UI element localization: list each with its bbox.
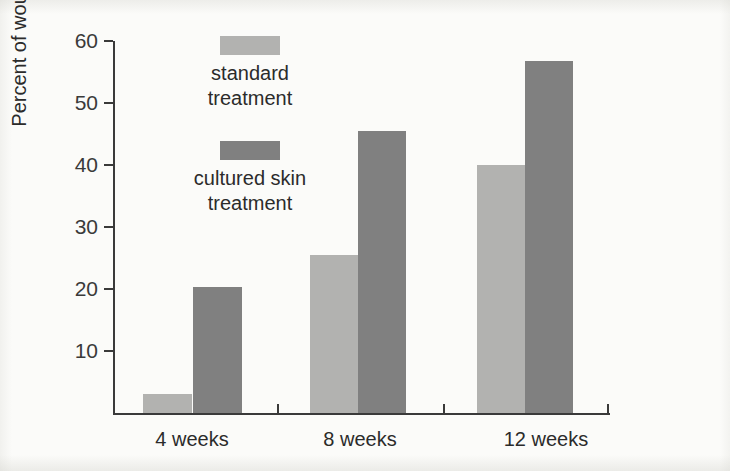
x-axis-label: 8 weeks [290,428,430,450]
bar-cultured [525,61,573,413]
legend-entry-standard: standard treatment [140,36,360,111]
legend-swatch-standard-icon [220,36,280,55]
y-tick-label: 60 [56,30,98,51]
x-axis-label: 4 weeks [122,428,262,450]
x-axis-label: 12 weeks [476,428,616,450]
y-tick-label: 20 [56,278,98,299]
y-axis-title: Percent of wounds healed [6,0,32,156]
legend-label-cultured: cultured skin treatment [140,166,360,216]
bar-cultured [358,131,406,413]
y-tick-mark [104,350,113,352]
y-tick-label: 10 [56,340,98,361]
y-tick-label: 30 [56,216,98,237]
y-tick-mark [104,226,113,228]
bar-standard [143,394,192,413]
y-tick-mark [104,164,113,166]
y-tick-label: 40 [56,154,98,175]
x-axis-line [113,413,610,415]
bar-standard [310,255,358,413]
bar-cultured [193,287,242,413]
y-tick-mark [104,40,113,42]
y-tick-mark [104,102,113,104]
y-tick-mark [104,288,113,290]
bar-standard [477,165,525,413]
legend-swatch-cultured-icon [220,141,280,160]
chart-legend: standard treatment cultured skin treatme… [140,36,360,230]
bar-chart-figure: Percent of wounds healed 60 50 40 30 20 … [0,0,730,471]
legend-label-standard: standard treatment [140,61,360,111]
legend-entry-cultured: cultured skin treatment [140,141,360,216]
y-tick-label: 50 [56,92,98,113]
